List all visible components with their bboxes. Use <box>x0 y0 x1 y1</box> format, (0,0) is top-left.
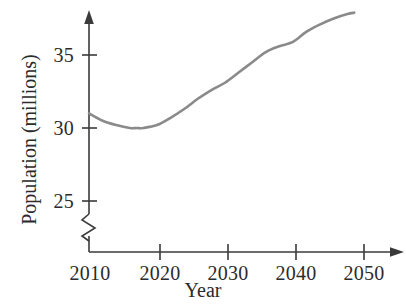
population-curve <box>89 13 354 129</box>
y-axis-title: Population (millions) <box>18 25 41 255</box>
x-axis-arrow-icon <box>390 247 404 257</box>
population-line-chart: 35 30 25 2010 2020 2030 2040 2050 Popula… <box>0 0 406 306</box>
y-tick-label-35: 35 <box>40 44 74 67</box>
y-tick-label-30: 30 <box>40 117 74 140</box>
y-tick-label-25: 25 <box>40 190 74 213</box>
y-axis-arrow-icon <box>84 10 94 24</box>
x-axis-title: Year <box>0 279 406 302</box>
